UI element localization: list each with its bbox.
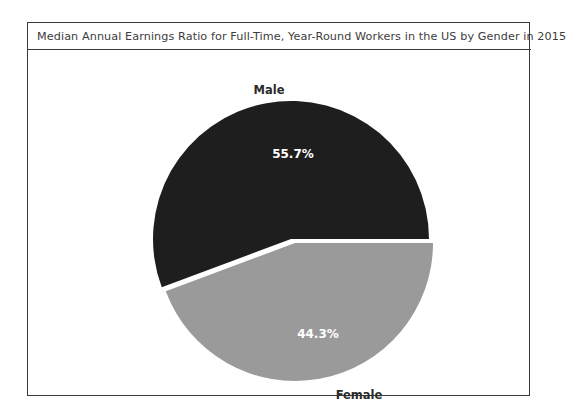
plot-area: 55.7% 44.3% Male Female [28, 50, 529, 395]
pie-chart: 55.7% 44.3% [28, 50, 529, 395]
page-title: Median Annual Earnings Ratio for Full-Ti… [37, 30, 566, 43]
pie-slice-male-label: Male [219, 83, 319, 97]
pie-slice-female-value: 44.3% [297, 327, 339, 341]
chart-title-box: Median Annual Earnings Ratio for Full-Ti… [28, 23, 531, 50]
chart-frame: Median Annual Earnings Ratio for Full-Ti… [27, 22, 530, 396]
pie-slice-female-label: Female [309, 388, 409, 402]
pie-slice-male-value: 55.7% [272, 147, 314, 161]
